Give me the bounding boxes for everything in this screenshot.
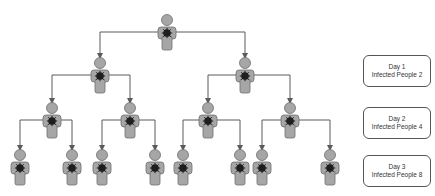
day-1-label: Day 1 <box>389 63 406 71</box>
virus-icon <box>203 116 213 126</box>
virus-icon <box>95 71 105 81</box>
day-1-infected: Infected People 2 <box>372 71 423 79</box>
person-icon <box>43 103 61 139</box>
virus-icon <box>47 116 57 126</box>
virus-icon <box>97 163 107 173</box>
person-icon <box>321 150 339 186</box>
day-2-infected: Infected People 4 <box>372 123 423 131</box>
person-icon <box>146 150 164 186</box>
person-icon <box>91 58 109 94</box>
virus-icon <box>150 163 160 173</box>
day-3-label: Day 3 <box>389 163 406 171</box>
day-2-box: Day 2 Infected People 4 <box>363 107 431 139</box>
person-icon <box>231 150 249 186</box>
virus-icon <box>240 71 250 81</box>
virus-icon <box>67 163 77 173</box>
person-icon <box>93 150 111 186</box>
day-3-box: Day 3 Infected People 8 <box>363 155 431 187</box>
person-icon <box>253 150 271 186</box>
virus-icon <box>325 163 335 173</box>
connectors <box>20 32 330 148</box>
person-icon <box>236 58 254 94</box>
virus-icon <box>235 163 245 173</box>
virus-icon <box>162 28 172 38</box>
virus-icon <box>178 163 188 173</box>
person-icon <box>63 150 81 186</box>
person-icon <box>11 150 29 186</box>
day-1-box: Day 1 Infected People 2 <box>363 55 431 87</box>
person-icon <box>121 103 139 139</box>
virus-icon <box>285 116 295 126</box>
day-3-infected: Infected People 8 <box>372 171 423 179</box>
virus-icon <box>15 163 25 173</box>
day-2-label: Day 2 <box>389 115 406 123</box>
person-icon <box>199 103 217 139</box>
infection-tree-diagram <box>0 0 360 196</box>
virus-icon <box>257 163 267 173</box>
person-icon <box>158 15 176 51</box>
virus-icon <box>125 116 135 126</box>
person-icon <box>281 103 299 139</box>
person-icon <box>174 150 192 186</box>
